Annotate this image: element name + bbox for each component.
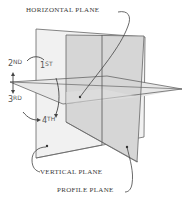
label-horizontal-plane: HORIZONTAL PLANE xyxy=(26,6,99,14)
label-vertical-plane: VERTICAL PLANE xyxy=(40,168,102,176)
quadrant-4th-label: 4TH xyxy=(42,115,55,125)
quadrant-2nd-label: 2ND xyxy=(8,58,22,68)
label-profile-plane: PROFILE PLANE xyxy=(57,186,114,194)
quadrant-3rd-label: 3RD xyxy=(8,94,22,104)
quadrant-1st-label: 1ST xyxy=(40,60,53,70)
projection-planes-diagram: HORIZONTAL PLANE VERTICAL PLANE PROFILE … xyxy=(0,0,183,205)
